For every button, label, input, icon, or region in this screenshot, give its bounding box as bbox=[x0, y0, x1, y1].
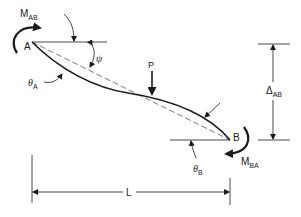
psi-label: ψ bbox=[96, 53, 103, 64]
theta-b-pointer bbox=[191, 141, 196, 158]
tangent-b-pointer bbox=[205, 103, 220, 117]
moment-ab-label: MAB bbox=[20, 8, 38, 21]
theta-b-label: θB bbox=[193, 163, 203, 176]
point-b-label: B bbox=[233, 132, 240, 143]
moment-ba-label: MBA bbox=[241, 156, 259, 169]
theta-a-label: θA bbox=[28, 77, 38, 90]
point-a-label: A bbox=[24, 41, 31, 52]
chord-line bbox=[32, 42, 230, 140]
delta-label: ΔAB bbox=[266, 85, 282, 98]
psi-angle-arc bbox=[90, 45, 94, 67]
length-label: L bbox=[126, 187, 132, 198]
reference-pointer-arrow bbox=[64, 14, 74, 41]
load-label: P bbox=[148, 60, 154, 70]
beam-diagram: MAB A ψ θA P B MBA θB ΔAB L bbox=[0, 0, 301, 217]
theta-a-pointer bbox=[44, 74, 62, 83]
